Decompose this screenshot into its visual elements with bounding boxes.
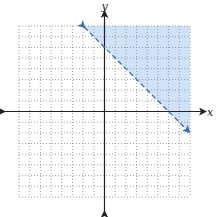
- coordinate-plane: x y: [0, 0, 220, 217]
- y-axis-label: y: [101, 0, 109, 13]
- x-axis-label: x: [207, 106, 214, 119]
